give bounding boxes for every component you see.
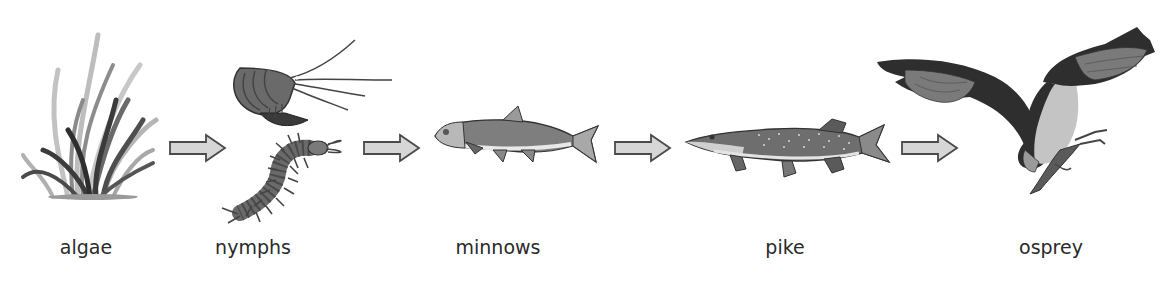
label-pike: pike: [765, 236, 804, 258]
algae-icon: [18, 25, 163, 200]
minnow-icon: [433, 104, 603, 174]
food-chain-diagram: algae nymphs minnows pike osprey: [0, 0, 1165, 284]
label-osprey: osprey: [1019, 236, 1083, 258]
osprey-icon: [875, 22, 1160, 200]
label-nymphs: nymphs: [215, 236, 291, 258]
arrow-nymphs-to-minnows: [362, 133, 422, 167]
arrow-minnows-to-pike: [613, 133, 673, 167]
label-algae: algae: [60, 236, 112, 258]
pike-icon: [684, 117, 894, 182]
nymph-icon: [200, 18, 400, 228]
label-minnows: minnows: [456, 236, 541, 258]
